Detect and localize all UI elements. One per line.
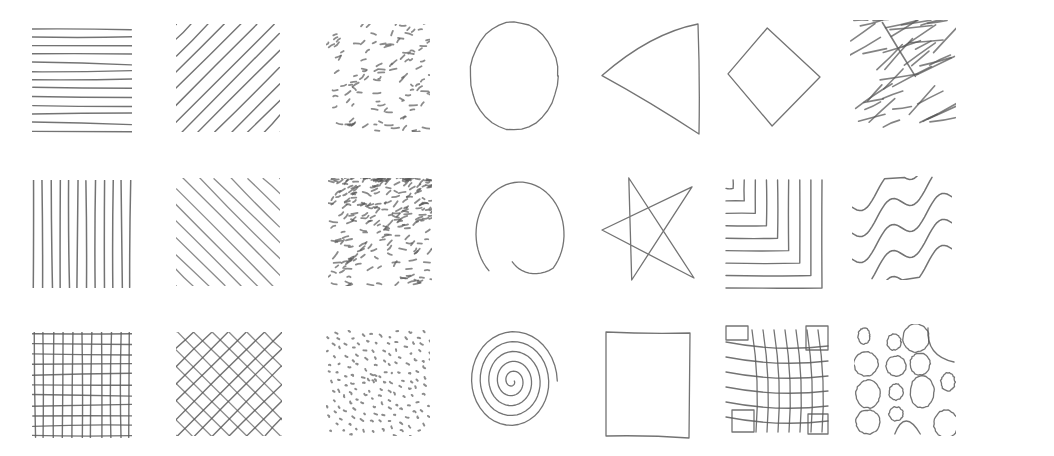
pattern-messy-hatching: [850, 20, 956, 134]
pattern-diagonal-lines-down: [176, 178, 280, 286]
triangle-drawing: [600, 22, 700, 136]
horizontal-lines-drawing: [32, 27, 132, 133]
nested-corners-drawing: [724, 178, 824, 290]
grid-drawing: [32, 332, 132, 438]
radial-dots-drawing: [326, 330, 430, 436]
pattern-bubbles: [854, 324, 956, 436]
pattern-sheet: [0, 0, 1054, 456]
pattern-triangle: [600, 22, 700, 136]
pattern-diagonal-lines-up: [176, 24, 280, 132]
messy-hatching-drawing: [850, 20, 956, 134]
spiral-drawing: [470, 326, 564, 436]
circle-drawing: [468, 20, 560, 132]
pattern-horizontal-lines: [32, 27, 132, 133]
wavy-lines-drawing: [852, 176, 952, 280]
diagonal-lines-up-drawing: [176, 24, 280, 132]
pattern-radial-dots: [326, 330, 430, 436]
square-drawing: [604, 330, 692, 440]
pattern-nested-corners: [724, 178, 824, 290]
pattern-grid: [32, 332, 132, 438]
pattern-gradient-dashes: [328, 178, 432, 286]
pattern-wavy-lines: [852, 176, 952, 280]
pattern-square: [604, 330, 692, 440]
gradient-dashes-drawing: [328, 178, 432, 286]
pattern-scattered-dashes: [326, 24, 430, 132]
pattern-spiral-open: [474, 178, 566, 290]
pattern-star: [600, 176, 696, 284]
distorted-grid-drawing: [724, 324, 830, 438]
diamond-drawing: [726, 26, 822, 128]
pattern-circle: [468, 20, 560, 132]
scattered-dashes-drawing: [326, 24, 430, 132]
diagonal-lines-down-drawing: [176, 178, 280, 286]
crosshatch-drawing: [176, 332, 282, 436]
pattern-distorted-grid: [724, 324, 830, 438]
pattern-vertical-lines: [32, 180, 132, 288]
star-drawing: [600, 176, 696, 284]
pattern-diamond: [726, 26, 822, 128]
pattern-crosshatch: [176, 332, 282, 436]
bubbles-drawing: [854, 324, 956, 436]
vertical-lines-drawing: [32, 180, 132, 288]
spiral-open-drawing: [474, 178, 566, 290]
pattern-spiral: [470, 326, 564, 436]
